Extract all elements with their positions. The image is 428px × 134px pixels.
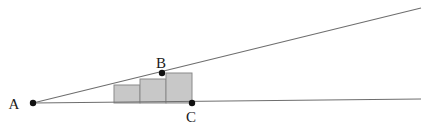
geometry-figure: A B C	[0, 0, 428, 134]
shaded-rectangles-group	[114, 73, 192, 103]
rect-2	[140, 79, 166, 103]
point-a-label: A	[9, 96, 20, 112]
geometry-canvas: A B C	[0, 0, 428, 134]
base-line	[33, 99, 421, 103]
rect-3	[166, 73, 192, 103]
point-c-marker	[189, 100, 195, 106]
upper-ray	[33, 8, 421, 103]
rect-1	[114, 85, 140, 103]
point-c-label: C	[186, 109, 196, 125]
point-b-label: B	[156, 55, 166, 71]
point-a-marker	[30, 100, 36, 106]
